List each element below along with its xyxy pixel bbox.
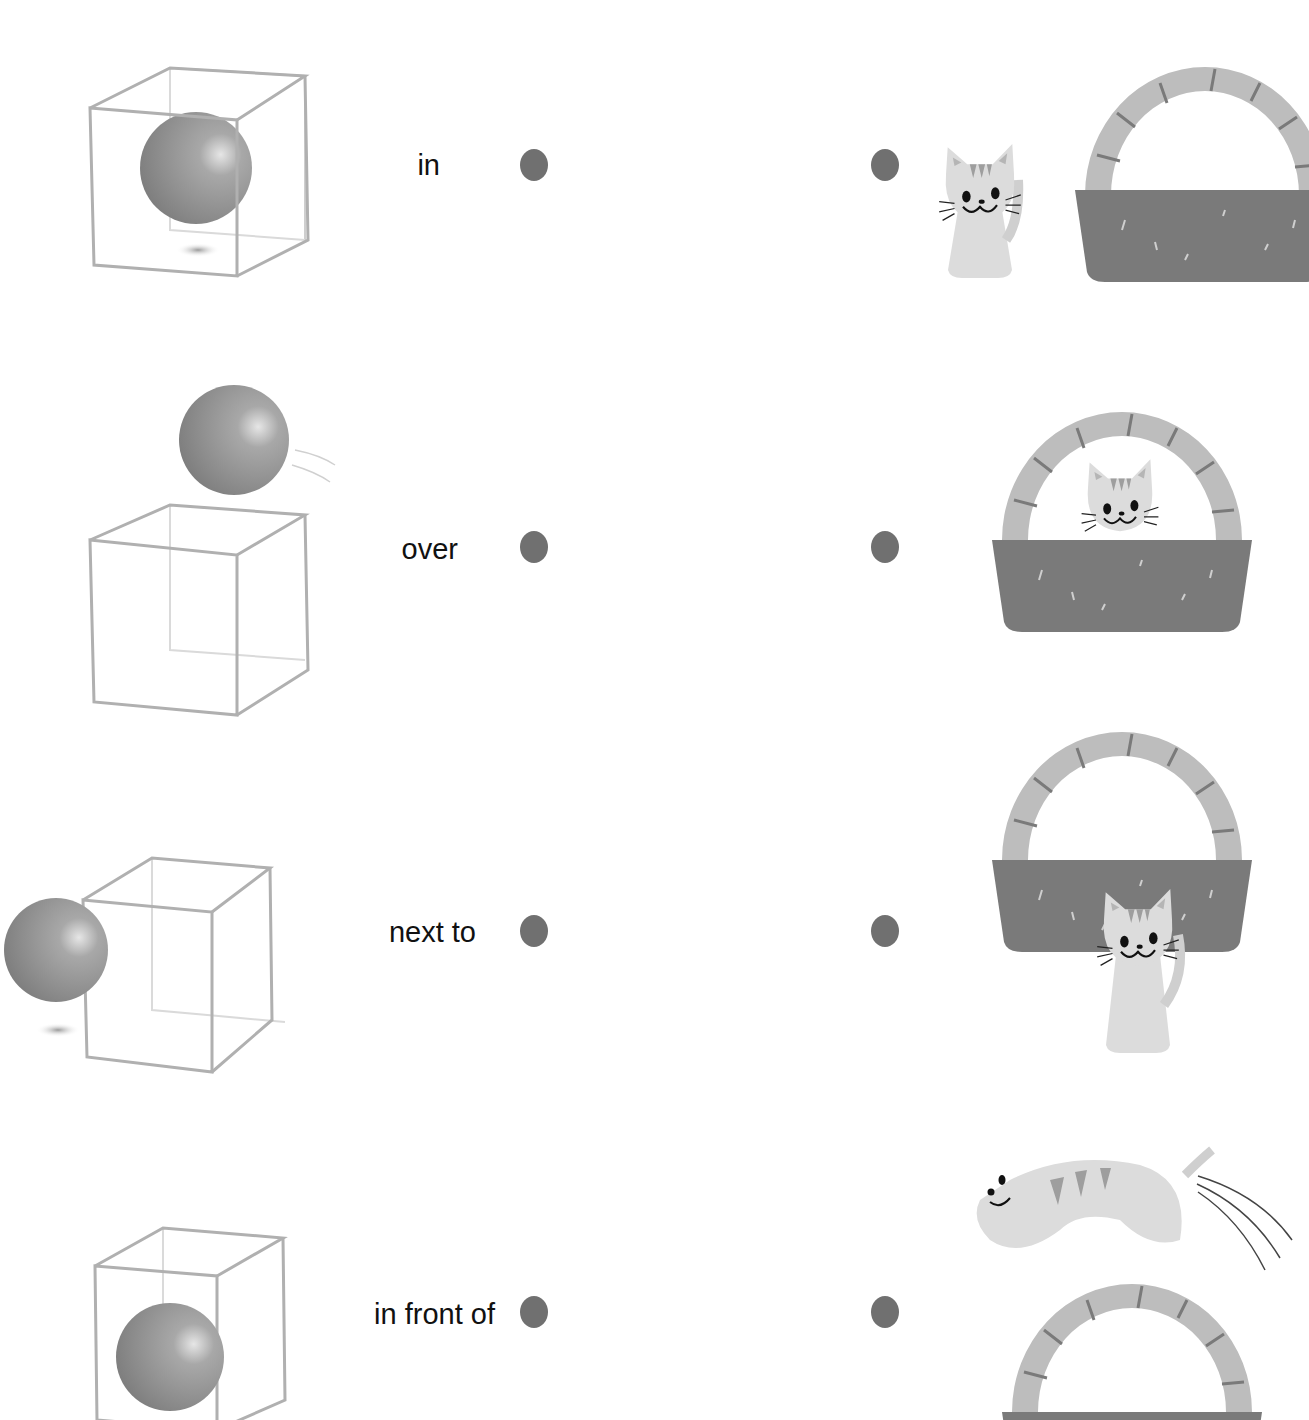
word-over: over <box>258 532 458 566</box>
cat-in-front-of-basket-picture <box>990 720 1309 1080</box>
cat-over-basket-picture <box>950 1140 1309 1420</box>
cat-in-basket-picture <box>990 400 1309 640</box>
match-dot-right-3[interactable] <box>871 915 899 947</box>
match-dot-left-2[interactable] <box>520 531 548 563</box>
word-in-front-of: in front of <box>295 1297 495 1331</box>
ball-next-to-cube-picture <box>0 850 330 1090</box>
match-dot-left-1[interactable] <box>520 149 548 181</box>
match-dot-right-4[interactable] <box>871 1296 899 1328</box>
word-next-to: next to <box>276 915 476 949</box>
match-dot-right-1[interactable] <box>871 149 899 181</box>
match-dot-right-2[interactable] <box>871 531 899 563</box>
match-dot-left-4[interactable] <box>520 1296 548 1328</box>
match-dot-left-3[interactable] <box>520 915 548 947</box>
word-in: in <box>240 148 440 182</box>
cat-next-to-basket-picture <box>920 60 1309 290</box>
